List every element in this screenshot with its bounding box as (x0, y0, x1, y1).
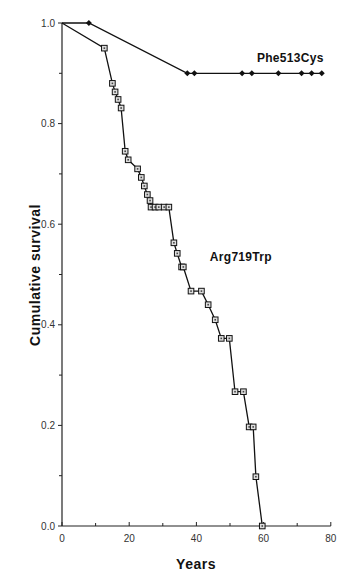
square-marker-dot (147, 194, 149, 196)
square-marker-dot (182, 266, 184, 268)
square-marker-dot (114, 91, 116, 93)
y-tick-label: 0.4 (41, 319, 55, 330)
square-marker-dot (163, 206, 165, 208)
y-tick-label: 0.0 (41, 521, 55, 532)
axes: 0204060800.00.20.40.60.81.0 (41, 18, 337, 545)
square-marker-dot (137, 168, 139, 170)
square-marker-dot (120, 107, 122, 109)
square-marker-dot (255, 476, 257, 478)
square-marker-dot (248, 426, 250, 428)
x-tick-label: 0 (59, 533, 65, 544)
square-marker-dot (176, 253, 178, 255)
square-marker-dot (124, 150, 126, 152)
diamond-marker (191, 70, 197, 76)
square-marker-dot (190, 290, 192, 292)
square-marker-dot (252, 426, 254, 428)
square-marker-dot (144, 185, 146, 187)
square-marker-dot (127, 159, 129, 161)
square-marker-dot (201, 290, 203, 292)
diamond-marker (309, 70, 315, 76)
y-axis-title: Cumulative survival (27, 204, 43, 346)
x-tick-label: 40 (191, 533, 203, 544)
square-marker-dot (234, 391, 236, 393)
square-marker-dot (117, 99, 119, 101)
square-marker-dot (140, 177, 142, 179)
y-tick-label: 0.2 (41, 420, 55, 431)
square-marker-dot (149, 200, 151, 202)
square-marker-dot (207, 304, 209, 306)
square-marker-dot (229, 338, 231, 340)
square-marker-dot (243, 391, 245, 393)
square-marker-dot (214, 319, 216, 321)
square-marker-dot (104, 47, 106, 49)
series-arg719trp (62, 23, 265, 529)
series-label-arg719trp: Arg719Trp (210, 250, 272, 264)
square-marker-dot (158, 206, 160, 208)
x-tick-label: 80 (325, 533, 337, 544)
diamond-marker (319, 70, 325, 76)
square-marker-dot (112, 83, 114, 85)
y-tick-label: 0.8 (41, 118, 55, 129)
series-layer (62, 20, 325, 529)
square-marker-dot (168, 206, 170, 208)
x-axis-title: Years (176, 556, 216, 572)
square-marker-dot (220, 338, 222, 340)
diamond-marker (299, 70, 305, 76)
x-tick-label: 20 (124, 533, 136, 544)
y-tick-label: 0.6 (41, 219, 55, 230)
series-line (62, 23, 262, 526)
square-marker-dot (173, 242, 175, 244)
diamond-marker (249, 70, 255, 76)
y-tick-label: 1.0 (41, 18, 55, 29)
survival-chart: 0204060800.00.20.40.60.81.0 Years Cumula… (0, 0, 348, 588)
square-marker-dot (150, 206, 152, 208)
diamond-marker (184, 70, 190, 76)
square-marker-dot (261, 525, 263, 527)
series-line (62, 23, 322, 73)
series-label-phe513cys: Phe513Cys (257, 51, 324, 65)
x-tick-label: 60 (258, 533, 270, 544)
diamond-marker (239, 70, 245, 76)
diamond-marker (86, 20, 92, 26)
diamond-marker (275, 70, 281, 76)
